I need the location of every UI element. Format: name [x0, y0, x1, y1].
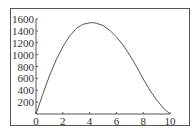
- x-tick-label: 4: [87, 115, 93, 127]
- x-tick-label: 8: [140, 115, 146, 127]
- y-tick-label: 800: [18, 61, 35, 73]
- y-tick-label: 1400: [12, 25, 35, 37]
- x-tick-label: 6: [114, 115, 120, 127]
- y-tick-label: 1200: [12, 37, 35, 49]
- y-tick-label: 1600: [12, 13, 35, 25]
- y-tick-label: 600: [18, 72, 35, 84]
- data-line: [36, 23, 170, 114]
- y-tick-label: 1000: [12, 49, 35, 61]
- x-tick-label: 2: [60, 115, 66, 127]
- line-chart: 02468102004006008001000120014001600: [0, 0, 193, 132]
- y-tick-label: 400: [18, 84, 35, 96]
- y-tick-label: 200: [18, 96, 35, 108]
- x-tick-label: 0: [33, 115, 39, 127]
- axes: 02468102004006008001000120014001600: [12, 13, 176, 127]
- x-tick-label: 10: [165, 115, 177, 127]
